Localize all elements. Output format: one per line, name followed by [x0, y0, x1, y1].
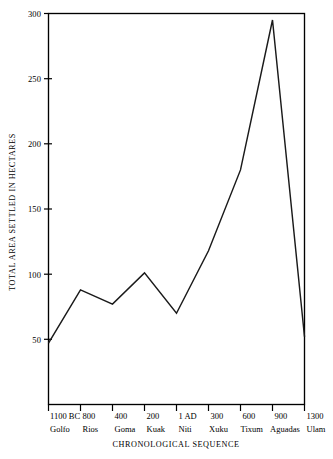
x-date-label: 900 — [275, 411, 288, 421]
chart-figure: TOTAL AREA SETTLED IN HECTARES 300 250 2… — [0, 0, 333, 459]
x-date-label: 1 AD — [179, 411, 197, 421]
x-category-label: Goma — [115, 424, 136, 434]
chart-background — [0, 0, 333, 459]
x-date-label: 800 — [83, 411, 96, 421]
x-date-label: 400 — [115, 411, 128, 421]
x-category-label: Niti — [179, 424, 193, 434]
x-category-label: Rios — [83, 424, 99, 434]
x-category-label: Aguadas — [270, 424, 300, 434]
x-category-label: Kuak — [147, 424, 166, 434]
x-category-label: Tixum — [241, 424, 264, 434]
y-tick-label: 200 — [28, 139, 41, 149]
line-chart: TOTAL AREA SETTLED IN HECTARES 300 250 2… — [0, 0, 333, 459]
x-category-label: Ulam — [307, 424, 326, 434]
x-axis-category-labels: Golfo Rios Goma Kuak Niti Xuku Tixum Agu… — [50, 424, 326, 434]
x-date-label: 1100 BC — [50, 411, 80, 421]
x-date-label: 1300 — [307, 411, 324, 421]
y-axis-title: TOTAL AREA SETTLED IN HECTARES — [8, 133, 17, 291]
x-axis-title: CHRONOLOGICAL SEQUENCE — [112, 440, 239, 449]
y-tick-label: 100 — [28, 270, 41, 280]
x-axis-date-labels: 1100 BC 800 400 200 1 AD 300 600 900 130… — [50, 411, 324, 421]
y-tick-label: 300 — [28, 9, 41, 19]
x-date-label: 600 — [243, 411, 256, 421]
x-date-label: 200 — [147, 411, 160, 421]
x-category-label: Golfo — [50, 424, 70, 434]
y-tick-label: 150 — [28, 204, 41, 214]
y-tick-label: 250 — [28, 74, 41, 84]
x-date-label: 300 — [211, 411, 224, 421]
x-category-label: Xuku — [209, 424, 229, 434]
y-tick-label: 50 — [32, 335, 41, 345]
